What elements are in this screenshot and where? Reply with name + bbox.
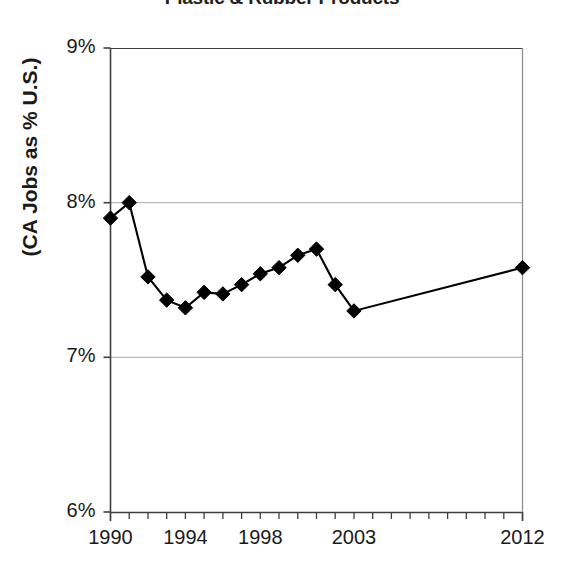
x-tick-marks xyxy=(111,512,523,521)
x-tick-label: 1994 xyxy=(163,526,208,549)
chart-figure: Plastic & Rubber Products (CA Jobs as % … xyxy=(0,0,564,573)
plot-area xyxy=(0,0,564,573)
x-tick-label: 1998 xyxy=(238,526,283,549)
axis-lines xyxy=(110,48,523,513)
x-tick-label: 2003 xyxy=(332,526,377,549)
y-tick-marks xyxy=(104,48,111,512)
data-point-markers xyxy=(103,195,529,318)
y-tick-label: 8% xyxy=(48,190,96,213)
x-tick-label: 2012 xyxy=(500,526,545,549)
y-tick-label: 9% xyxy=(48,35,96,58)
x-tick-label: 1990 xyxy=(88,526,133,549)
gridlines xyxy=(111,203,523,358)
y-tick-label: 7% xyxy=(48,344,96,367)
y-tick-label: 6% xyxy=(48,499,96,522)
